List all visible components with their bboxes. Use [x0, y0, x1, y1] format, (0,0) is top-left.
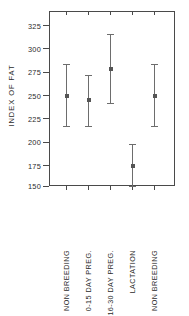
y-tick-label-250: 250 [28, 92, 41, 101]
x-axis-label-text-1: 0-15 DAY PREG. [84, 250, 93, 311]
error-bar-cap-lower-2 [107, 103, 114, 104]
data-point-marker-3 [131, 164, 135, 168]
error-bar-cap-upper-0 [63, 64, 70, 65]
error-bar-cap-lower-1 [85, 126, 92, 127]
x-axis-label-text-2: 16-30 DAY PREG. [106, 250, 115, 316]
error-bar-cap-upper-4 [151, 64, 158, 65]
data-point-marker-0 [65, 94, 69, 98]
y-tick-label-275: 275 [28, 68, 41, 77]
y-tick-label-175: 175 [28, 162, 41, 171]
plot-area [49, 11, 175, 186]
y-axis-title-text: INDEX OF FAT [7, 64, 16, 126]
error-bar-cap-lower-3 [129, 186, 136, 187]
y-tick-mark-150 [43, 186, 49, 187]
error-bar-cap-lower-4 [151, 126, 158, 127]
y-tick-label-300: 300 [28, 45, 41, 54]
error-bar-cap-upper-3 [129, 144, 136, 145]
x-tick-mark-top-4 [154, 11, 155, 15]
x-axis-label-0: NON BREEDING [59, 190, 73, 252]
y-tick-label-200: 200 [28, 138, 41, 147]
data-point-marker-4 [153, 94, 157, 98]
x-axis-label-text-0: NON BREEDING [62, 250, 71, 311]
x-tick-mark-top-0 [66, 11, 67, 15]
x-axis-label-2: 16-30 DAY PREG. [103, 190, 117, 252]
x-tick-mark-top-1 [88, 11, 89, 15]
y-tick-label-325: 325 [28, 22, 41, 31]
error-bar-cap-lower-0 [63, 126, 70, 127]
error-bar-cap-upper-2 [107, 34, 114, 35]
data-point-marker-1 [87, 98, 91, 102]
x-axis-label-text-3: LACTATION [128, 250, 137, 293]
x-axis-label-4: NON BREEDING [147, 190, 161, 252]
x-axis-label-1: 0-15 DAY PREG. [81, 190, 95, 252]
x-axis-label-3: LACTATION [125, 190, 139, 252]
error-bar-cap-upper-1 [85, 75, 92, 76]
y-tick-label-225: 225 [28, 115, 41, 124]
data-point-marker-2 [109, 67, 113, 71]
y-axis-title: INDEX OF FAT [0, 0, 22, 190]
x-tick-mark-top-3 [132, 11, 133, 15]
y-tick-label-150: 150 [28, 182, 41, 191]
x-axis-label-text-4: NON BREEDING [150, 250, 159, 311]
x-tick-mark-top-2 [110, 11, 111, 15]
